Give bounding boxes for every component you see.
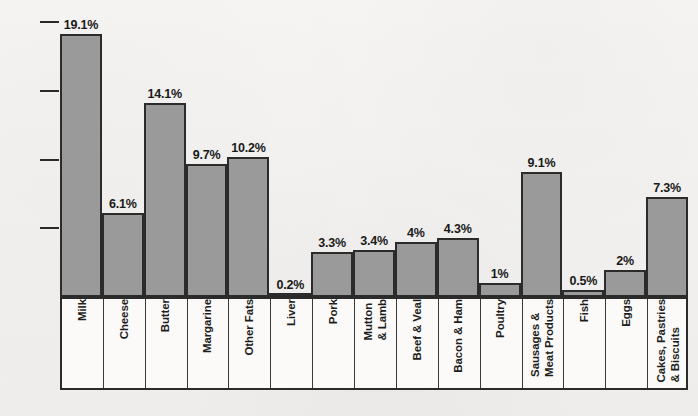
bar-column[interactable]: 7.3% <box>646 0 688 297</box>
category-label-text: Liver <box>285 299 299 331</box>
category-label-cell[interactable]: Cakes, Pastries & Biscuits <box>648 299 690 388</box>
category-label-cell[interactable]: Pork <box>313 299 355 388</box>
bar-value-label: 10.2% <box>231 141 265 155</box>
y-axis-tick-mark <box>40 21 59 23</box>
bar-column[interactable]: 2% <box>604 0 646 297</box>
category-label-cell[interactable]: Mutton & Lamb <box>355 299 397 388</box>
bar[interactable] <box>102 213 144 297</box>
bar-value-label: 0.2% <box>276 278 304 292</box>
bar-column[interactable]: 9.7% <box>186 0 228 297</box>
category-label-text: Fish <box>578 299 592 327</box>
category-label-cell[interactable]: Other Fats <box>229 299 271 388</box>
category-label-text: Sausages & Meat Products <box>529 299 556 382</box>
bar-column[interactable]: 10.2% <box>227 0 269 297</box>
category-label-cell[interactable]: Beef & Veal <box>397 299 439 388</box>
bar-column[interactable]: 0.5% <box>562 0 604 297</box>
bar-value-label: 14.1% <box>147 87 181 101</box>
bar-column[interactable]: 3.4% <box>353 0 395 297</box>
bar-column[interactable]: 4.3% <box>437 0 479 297</box>
bar-value-label: 7.3% <box>653 181 681 195</box>
bar[interactable] <box>311 252 353 297</box>
bar-value-label: 1% <box>491 267 509 281</box>
bar-value-label: 4.3% <box>444 222 472 236</box>
category-label-cell[interactable]: Fish <box>564 299 606 388</box>
bar[interactable] <box>144 103 186 297</box>
bar-value-label: 3.4% <box>360 234 388 248</box>
bar[interactable] <box>562 290 604 297</box>
bar-value-label: 4% <box>407 226 425 240</box>
category-label-cell[interactable]: Eggs <box>606 299 648 388</box>
category-label-text: Mutton & Lamb <box>362 299 389 346</box>
bar[interactable] <box>521 172 563 297</box>
bar-column[interactable]: 4% <box>395 0 437 297</box>
plot-area: 19.1%6.1%14.1%9.7%10.2%0.2%3.3%3.4%4%4.3… <box>60 0 688 297</box>
category-label-cell[interactable]: Poultry <box>481 299 523 388</box>
category-label-text: Poultry <box>494 299 508 343</box>
y-axis-tick-mark <box>40 90 59 92</box>
category-label-cell[interactable]: Milk <box>62 299 104 388</box>
category-label-text: Bacon & Ham <box>452 299 466 378</box>
category-label-text: Cheese <box>118 299 132 344</box>
bar[interactable] <box>646 197 688 297</box>
bar-chart: 20%15%10%5% 19.1%6.1%14.1%9.7%10.2%0.2%3… <box>0 0 698 416</box>
bar[interactable] <box>437 238 479 297</box>
category-label-text: Cakes, Pastries & Biscuits <box>655 299 682 388</box>
category-label-text: Other Fats <box>243 299 257 361</box>
bar-column[interactable]: 1% <box>479 0 521 297</box>
bar-value-label: 0.5% <box>569 274 597 288</box>
bar[interactable] <box>604 270 646 298</box>
y-axis-tick-mark <box>40 159 59 161</box>
bar-column[interactable]: 9.1% <box>521 0 563 297</box>
bar-value-label: 6.1% <box>109 197 137 211</box>
category-label-text: Milk <box>76 299 90 326</box>
category-label-text: Margarine <box>201 299 215 358</box>
bar-column[interactable]: 19.1% <box>60 0 102 297</box>
category-label-cell[interactable]: Cheese <box>104 299 146 388</box>
category-label-cell[interactable]: Sausages & Meat Products <box>523 299 565 388</box>
bar-column[interactable]: 3.3% <box>311 0 353 297</box>
bar[interactable] <box>60 34 102 297</box>
category-label-cell[interactable]: Bacon & Ham <box>439 299 481 388</box>
bar-column[interactable]: 0.2% <box>269 0 311 297</box>
category-label-cell[interactable]: Liver <box>271 299 313 388</box>
bar[interactable] <box>479 283 521 297</box>
bar-value-label: 3.3% <box>318 236 346 250</box>
category-label-cell[interactable]: Margarine <box>188 299 230 388</box>
category-label-text: Pork <box>327 299 341 329</box>
bar-column[interactable]: 6.1% <box>102 0 144 297</box>
bar[interactable] <box>395 242 437 297</box>
bar-value-label: 9.1% <box>528 156 556 170</box>
category-label-text: Butter <box>159 299 173 337</box>
category-label-box: MilkCheeseButterMargarineOther FatsLiver… <box>60 297 688 390</box>
bar-value-label: 2% <box>616 254 634 268</box>
bar-column[interactable]: 14.1% <box>144 0 186 297</box>
category-label-text: Eggs <box>620 299 634 332</box>
bar-value-label: 9.7% <box>193 148 221 162</box>
category-label-text: Beef & Veal <box>411 299 425 366</box>
bar-value-label: 19.1% <box>64 18 98 32</box>
bar[interactable] <box>227 157 269 297</box>
bar[interactable] <box>353 250 395 297</box>
bar[interactable] <box>186 164 228 297</box>
y-axis-tick-mark <box>40 227 59 229</box>
category-label-cell[interactable]: Butter <box>146 299 188 388</box>
